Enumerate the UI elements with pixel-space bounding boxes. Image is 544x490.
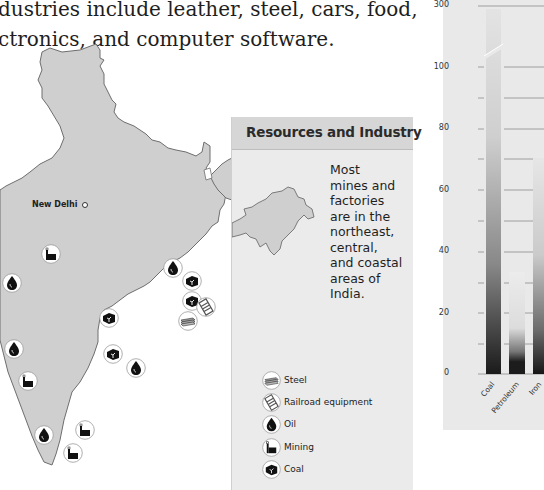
railroad-marker-icon <box>196 297 216 317</box>
y-tick-20: 20 <box>425 308 449 317</box>
panel-title: Resources and Industry <box>246 124 422 140</box>
y-tick-80: 80 <box>425 123 449 132</box>
y-tick-100: 100 <box>425 62 449 71</box>
mining-marker-icon <box>75 420 95 440</box>
legend-label: Coal <box>284 464 304 474</box>
panel-text-line: central, <box>330 240 414 256</box>
coal-marker-icon <box>99 308 119 328</box>
oil-marker-icon <box>2 273 22 293</box>
coal-icon <box>262 460 281 479</box>
railroad-icon <box>262 393 281 412</box>
city-name: New Delhi <box>32 200 78 209</box>
panel-description: Most mines and factories are in the nort… <box>330 162 414 302</box>
panel-text-line: India. <box>330 286 414 302</box>
legend-item-railroad: Railroad equipment <box>262 392 372 412</box>
panel-text-line: Most <box>330 162 414 178</box>
bar-coal <box>486 9 501 374</box>
panel-text-line: factories <box>330 193 414 209</box>
panel-text-line: mines and <box>330 178 414 194</box>
bar-iron <box>533 158 544 374</box>
steel-marker-icon <box>178 311 198 331</box>
legend-item-steel: Steel <box>262 370 307 390</box>
mining-icon <box>262 438 281 457</box>
resources-panel: Resources and Industry Most mines and fa… <box>231 117 413 490</box>
steel-icon <box>262 371 281 390</box>
legend-label: Steel <box>284 375 307 385</box>
panel-header: Resources and Industry <box>232 117 413 150</box>
oil-icon <box>262 415 281 434</box>
coal-marker-icon <box>182 271 202 291</box>
northeast-india-map <box>232 149 332 269</box>
coal-marker-icon <box>103 344 123 364</box>
city-label-new-delhi: New Delhi <box>32 200 88 209</box>
oil-marker-icon <box>34 425 54 445</box>
panel-text-line: areas of <box>330 271 414 287</box>
legend-label: Oil <box>284 419 296 429</box>
y-tick-300: 300 <box>425 0 449 9</box>
mining-marker-icon <box>41 244 61 264</box>
mining-marker-icon <box>18 371 38 391</box>
panel-text-line: are in the <box>330 209 414 225</box>
mining-marker-icon <box>63 443 83 463</box>
resources-bar-chart: 300 100 80 60 40 20 0 Coal Petroleum Iro… <box>425 0 544 490</box>
oil-marker-icon <box>4 339 24 359</box>
legend-item-mining: Mining <box>262 437 314 457</box>
panel-text-line: northeast, <box>330 224 414 240</box>
legend-label: Railroad equipment <box>284 397 372 407</box>
y-tick-60: 60 <box>425 185 449 194</box>
oil-marker-icon <box>126 358 146 378</box>
india-map <box>0 0 232 490</box>
legend-item-oil: Oil <box>262 414 296 434</box>
legend-item-coal: Coal <box>262 459 304 479</box>
bar-petroleum <box>509 272 525 374</box>
y-tick-40: 40 <box>425 246 449 255</box>
legend-label: Mining <box>284 442 314 452</box>
capital-dot-icon <box>82 202 88 208</box>
panel-text-line: and coastal <box>330 255 414 271</box>
oil-marker-icon <box>163 258 183 278</box>
y-tick-0: 0 <box>425 368 449 377</box>
